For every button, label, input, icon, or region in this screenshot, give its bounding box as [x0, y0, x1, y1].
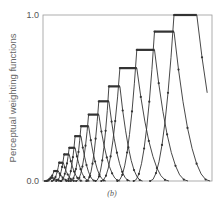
data-marker	[106, 156, 108, 158]
data-marker	[177, 69, 179, 71]
data-marker	[62, 178, 64, 180]
data-marker	[100, 130, 102, 132]
data-marker	[116, 180, 118, 182]
data-marker	[153, 31, 155, 33]
data-marker	[56, 170, 58, 172]
data-marker	[75, 180, 77, 182]
data-marker	[80, 180, 82, 182]
data-marker	[72, 156, 74, 158]
data-marker	[65, 180, 67, 182]
data-marker	[94, 160, 96, 162]
data-marker	[55, 180, 57, 182]
data-marker	[81, 165, 83, 167]
weighting-curve	[134, 32, 210, 181]
weighting-functions-chart: 1.0 0.0 Perceptual weighting functions (…	[0, 0, 223, 204]
data-marker	[183, 179, 185, 181]
data-marker	[85, 164, 87, 166]
data-marker	[161, 144, 163, 146]
data-marker	[70, 178, 72, 180]
data-marker	[64, 166, 66, 168]
data-marker	[164, 179, 166, 181]
data-marker	[133, 180, 135, 182]
data-marker	[111, 172, 113, 174]
data-marker	[58, 162, 60, 164]
data-marker	[105, 175, 107, 177]
data-marker	[78, 177, 80, 179]
data-marker	[114, 120, 116, 122]
data-marker	[82, 147, 84, 149]
data-marker	[166, 133, 168, 135]
data-marker	[167, 92, 169, 94]
data-marker	[149, 180, 151, 182]
y-tick-top: 1.0	[26, 10, 39, 20]
data-marker	[68, 178, 70, 180]
data-marker	[155, 172, 157, 174]
data-marker	[66, 162, 68, 164]
data-marker	[205, 178, 207, 180]
data-marker	[140, 96, 142, 98]
data-marker	[93, 179, 95, 181]
data-marker	[75, 168, 77, 170]
data-marker	[174, 165, 176, 167]
weighting-curve	[150, 15, 207, 181]
data-marker	[49, 178, 51, 180]
data-marker	[91, 163, 93, 165]
data-marker	[88, 176, 90, 178]
data-marker	[186, 127, 188, 129]
data-marker	[119, 67, 121, 69]
data-marker	[72, 177, 74, 179]
data-marker	[76, 177, 78, 179]
data-marker	[70, 180, 72, 182]
data-marker	[95, 180, 97, 182]
data-marker	[143, 147, 145, 149]
data-marker	[126, 179, 128, 181]
data-marker	[70, 170, 72, 172]
data-marker	[63, 153, 65, 155]
data-marker	[126, 151, 128, 153]
data-marker	[48, 179, 50, 181]
data-marker	[133, 169, 135, 171]
figure-caption: (b)	[107, 189, 117, 198]
data-marker	[196, 163, 198, 165]
data-marker	[98, 100, 100, 102]
data-marker	[110, 155, 112, 157]
data-marker	[53, 179, 55, 181]
data-marker	[138, 173, 140, 175]
data-marker	[88, 114, 90, 116]
data-marker	[139, 179, 141, 181]
data-marker	[136, 49, 138, 51]
data-marker	[54, 176, 56, 178]
data-marker	[105, 130, 107, 132]
data-marker	[84, 145, 86, 147]
data-marker	[68, 147, 70, 149]
curves	[44, 14, 210, 182]
data-marker	[100, 180, 102, 182]
data-marker	[131, 110, 133, 112]
data-marker	[53, 170, 55, 172]
data-marker	[98, 175, 100, 177]
y-axis-label: Perceptual weighting functions	[7, 33, 18, 162]
data-marker	[121, 174, 123, 176]
data-marker	[158, 82, 160, 84]
weighting-curve	[61, 148, 90, 181]
data-marker	[95, 138, 97, 140]
data-marker	[80, 125, 82, 127]
data-marker	[61, 166, 63, 168]
data-marker	[64, 173, 66, 175]
data-marker	[59, 174, 61, 176]
data-marker	[173, 14, 175, 16]
data-marker	[57, 179, 59, 181]
data-marker	[70, 160, 72, 162]
data-marker	[122, 109, 124, 111]
data-marker	[201, 56, 203, 58]
data-marker	[85, 180, 87, 182]
data-marker	[83, 176, 85, 178]
data-marker	[77, 151, 79, 153]
data-marker	[108, 85, 110, 87]
y-tick-bottom: 0.0	[26, 176, 39, 186]
data-marker	[74, 135, 76, 137]
data-marker	[148, 101, 150, 103]
data-marker	[148, 140, 150, 142]
data-marker	[67, 173, 69, 175]
data-marker	[101, 159, 103, 161]
